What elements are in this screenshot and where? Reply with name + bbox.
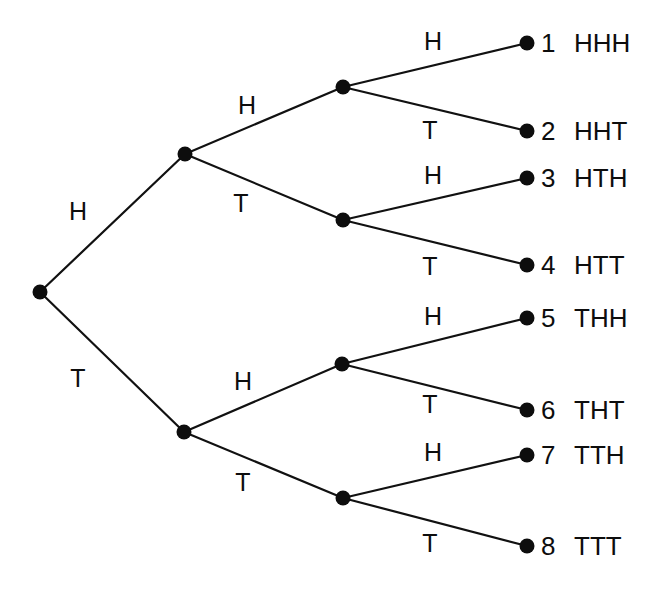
tree-graphics xyxy=(0,0,659,593)
leaf-node-7 xyxy=(520,448,535,463)
leaf-index-1: 1 xyxy=(541,30,555,56)
probability-tree-figure: HTHTHTHTHTHTHT 1HHH2HHT3HTH4HTT5THH6THT7… xyxy=(0,0,659,593)
leaf-outcome-HTT: HTT xyxy=(574,252,625,278)
node-th xyxy=(335,357,350,372)
edge-h-hh-label: H xyxy=(238,93,256,118)
edge-h-hh xyxy=(185,87,343,154)
root-node xyxy=(33,285,48,300)
leaf-node-6 xyxy=(520,403,535,418)
edge-t-th-label: H xyxy=(234,369,252,394)
leaf-index-8: 8 xyxy=(541,533,555,559)
edge-h-ht xyxy=(185,154,343,220)
leaf-node-2 xyxy=(520,124,535,139)
leaf-index-6: 6 xyxy=(541,397,555,423)
node-hh xyxy=(336,80,351,95)
edge-hh-2-label: T xyxy=(422,118,437,143)
edge-th-5-label: H xyxy=(424,304,442,329)
leaf-index-3: 3 xyxy=(541,165,555,191)
leaf-node-3 xyxy=(520,171,535,186)
edge-hh-1-label: H xyxy=(424,29,442,54)
node-tt xyxy=(336,491,351,506)
edge-ht-3-label: H xyxy=(424,163,442,188)
edge-h-ht-label: T xyxy=(233,191,248,216)
node-t xyxy=(177,425,192,440)
edge-tt-7-label: H xyxy=(424,440,442,465)
edge-t-tt xyxy=(184,432,343,498)
leaf-outcome-HHT: HHT xyxy=(574,118,627,144)
leaf-node-5 xyxy=(520,311,535,326)
edge-root-t xyxy=(40,292,184,432)
edge-root-h-label: H xyxy=(69,199,87,224)
edge-th-6-label: T xyxy=(422,392,437,417)
node-h xyxy=(178,147,193,162)
leaf-outcome-TTT: TTT xyxy=(574,533,622,559)
leaf-node-1 xyxy=(520,36,535,51)
leaf-outcome-HHH: HHH xyxy=(574,30,630,56)
edge-lines xyxy=(40,43,527,546)
edge-t-tt-label: T xyxy=(235,470,250,495)
leaf-index-2: 2 xyxy=(541,118,555,144)
leaf-outcome-TTH: TTH xyxy=(574,442,625,468)
leaf-outcome-HTH: HTH xyxy=(574,165,627,191)
edge-ht-4-label: T xyxy=(422,254,437,279)
edge-root-t-label: T xyxy=(70,366,85,391)
edge-t-th xyxy=(184,364,342,432)
leaf-index-4: 4 xyxy=(541,252,555,278)
leaf-node-8 xyxy=(520,539,535,554)
node-ht xyxy=(336,213,351,228)
leaf-index-7: 7 xyxy=(541,442,555,468)
edge-root-h xyxy=(40,154,185,292)
leaf-outcome-THH: THH xyxy=(574,305,627,331)
edge-tt-8-label: T xyxy=(422,531,437,556)
leaf-node-4 xyxy=(520,258,535,273)
leaf-outcome-THT: THT xyxy=(574,397,625,423)
leaf-index-5: 5 xyxy=(541,305,555,331)
